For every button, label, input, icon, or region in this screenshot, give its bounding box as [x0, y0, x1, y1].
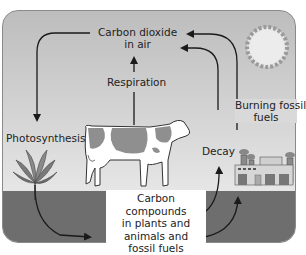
arrow-plant-to-compounds — [35, 185, 90, 237]
arrow-compounds-decay — [205, 168, 219, 212]
process-photosynthesis: Photosynthesis — [6, 132, 85, 144]
node-air-line1: Carbon dioxide — [98, 26, 177, 38]
node-air-line2: in air — [98, 38, 177, 50]
node-compounds-line2: in plants and — [110, 217, 202, 230]
process-decay: Decay — [202, 145, 235, 157]
node-carbon-dioxide-in-air: Carbon dioxide in air — [98, 26, 177, 50]
arrow-photosynthesis — [37, 33, 90, 120]
sun-icon — [247, 27, 287, 67]
arrow-decay — [182, 48, 218, 110]
node-compounds-line1: Carbon compounds — [110, 192, 202, 217]
node-compounds-line4: fossil fuels — [110, 242, 202, 255]
arrow-compounds-factory — [205, 198, 238, 237]
plant-icon — [13, 150, 57, 200]
node-compounds-line3: animals and — [110, 230, 202, 243]
process-burning-fossil-fuels: Burning fossil fuels — [235, 99, 297, 123]
node-carbon-compounds: Carbon compounds in plants and animals a… — [106, 190, 206, 244]
cow-icon — [85, 120, 189, 186]
process-burning-line2: fuels — [235, 111, 297, 123]
factory-icon — [235, 149, 295, 185]
process-respiration: Respiration — [107, 76, 166, 88]
process-burning-line1: Burning fossil — [235, 99, 297, 111]
